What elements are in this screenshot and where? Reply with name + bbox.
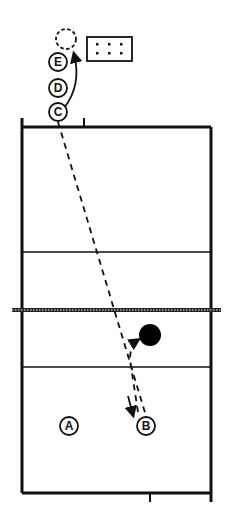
net — [12, 308, 221, 312]
dashed-player-position — [56, 29, 76, 49]
player-c: C — [49, 103, 67, 121]
court — [12, 118, 221, 502]
court-diagram: E D C A B — [0, 0, 230, 527]
ball — [139, 324, 161, 346]
player-label: D — [54, 81, 63, 95]
player-d: D — [49, 79, 67, 97]
ball-cart — [87, 37, 132, 61]
player-label: B — [142, 419, 151, 433]
player-e: E — [49, 53, 67, 71]
player-a: A — [60, 417, 78, 435]
arrow-to-b — [128, 396, 133, 415]
player-label: E — [54, 55, 62, 69]
ball-path-c-to-b — [58, 122, 146, 416]
player-label: A — [65, 419, 74, 433]
player-b: B — [137, 417, 155, 435]
player-label: C — [54, 105, 63, 119]
